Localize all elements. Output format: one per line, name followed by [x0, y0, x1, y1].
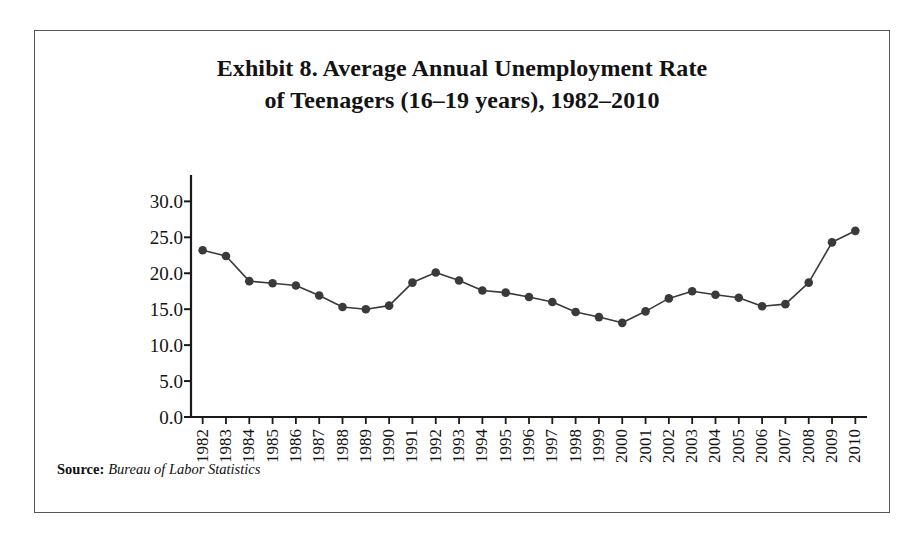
x-axis-tick-label: 2009	[823, 429, 841, 463]
x-axis-tick-label: 1998	[567, 429, 585, 463]
page-title: Exhibit 8. Average Annual Unemployment R…	[35, 53, 889, 116]
data-point-marker	[711, 291, 720, 300]
data-point-marker	[548, 298, 557, 307]
source-label: Source:	[57, 461, 104, 477]
x-axis-tick-label: 2003	[683, 429, 701, 463]
x-axis-tick-label: 1992	[427, 429, 445, 463]
data-point-marker	[571, 308, 580, 317]
data-point-marker	[501, 288, 510, 297]
data-point-marker	[828, 238, 837, 247]
data-point-marker	[408, 278, 417, 287]
x-axis-tick-label: 2005	[730, 429, 748, 463]
data-point-marker	[618, 319, 627, 328]
data-point-marker	[245, 277, 254, 286]
y-axis-tick-label: 5.0	[107, 372, 183, 391]
y-axis-tick-label: 20.0	[107, 264, 183, 283]
data-point-marker	[641, 307, 650, 316]
x-axis-tick-label: 1997	[543, 429, 561, 463]
y-axis-tick-label: 10.0	[107, 336, 183, 355]
chart-title-line-2: of Teenagers (16–19 years), 1982–2010	[35, 85, 889, 117]
x-axis-tick-label: 1985	[264, 429, 282, 463]
data-point-marker	[804, 278, 813, 287]
x-axis-tick-label: 1989	[357, 429, 375, 463]
data-point-marker	[595, 313, 604, 322]
source-value: Bureau of Labor Statistics	[104, 461, 260, 477]
x-axis-tick-label: 1990	[380, 429, 398, 463]
x-axis-tick-label: 1994	[473, 429, 491, 463]
x-axis-tick-label: 2008	[800, 429, 818, 463]
x-axis-tick-label: 1993	[450, 429, 468, 463]
data-point-marker	[315, 291, 324, 300]
data-point-marker	[292, 281, 301, 290]
data-point-marker	[268, 279, 277, 288]
x-axis-tick-label: 1986	[287, 429, 305, 463]
data-point-marker	[338, 303, 347, 312]
y-axis-tick-labels: 30.025.020.015.010.05.00.0	[107, 217, 183, 387]
y-axis-tick-label: 30.0	[107, 192, 183, 211]
x-axis-tick-label: 2002	[660, 429, 678, 463]
data-point-marker	[385, 301, 394, 310]
y-axis-tick-label: 0.0	[107, 408, 183, 427]
data-point-marker	[688, 287, 697, 296]
data-point-marker	[734, 293, 743, 302]
data-point-marker	[781, 300, 790, 309]
x-axis-tick-label: 1983	[217, 429, 235, 463]
data-point-marker	[478, 286, 487, 295]
data-point-marker	[431, 268, 440, 277]
line-chart-canvas	[191, 187, 867, 417]
x-axis-tick-label: 1991	[403, 429, 421, 463]
data-point-marker	[665, 294, 674, 303]
data-point-marker	[455, 276, 464, 285]
x-axis-tick-label: 1988	[334, 429, 352, 463]
exhibit-frame: Exhibit 8. Average Annual Unemployment R…	[34, 30, 890, 513]
x-axis-tick-label: 1999	[590, 429, 608, 463]
x-axis-tick-label: 1987	[310, 429, 328, 463]
data-point-marker	[525, 293, 534, 302]
x-axis-tick-label: 1995	[497, 429, 515, 463]
x-axis-tick-label: 1982	[194, 429, 212, 463]
data-point-marker	[222, 252, 231, 261]
x-axis-tick-label: 2006	[753, 429, 771, 463]
source-note: Source:Bureau of Labor Statistics	[57, 461, 260, 478]
x-axis-tick-label: 2000	[613, 429, 631, 463]
x-axis-tick-label: 2007	[776, 429, 794, 463]
x-axis-tick-label: 2010	[846, 429, 864, 463]
x-axis-tick-label: 2001	[637, 429, 655, 463]
line-chart-svg	[191, 187, 867, 427]
x-axis-tick-labels: 1982198319841985198619871988198919901991…	[191, 401, 867, 463]
chart-plot-area: Unemployment Rate 30.025.020.015.010.05.…	[77, 169, 867, 459]
x-axis-tick-label: 1996	[520, 429, 538, 463]
chart-title-line-1: Exhibit 8. Average Annual Unemployment R…	[35, 53, 889, 85]
data-point-marker	[758, 302, 767, 311]
y-axis-tick-label: 25.0	[107, 228, 183, 247]
data-point-marker	[851, 227, 860, 236]
data-point-marker	[198, 246, 207, 255]
data-series-line	[203, 231, 856, 323]
data-point-marker	[362, 305, 371, 314]
x-axis-tick-label: 1984	[240, 429, 258, 463]
y-axis-tick-label: 15.0	[107, 300, 183, 319]
x-axis-tick-label: 2004	[706, 429, 724, 463]
